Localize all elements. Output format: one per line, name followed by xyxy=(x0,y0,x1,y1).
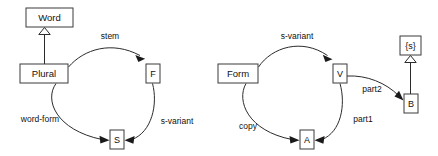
arrowhead-icon xyxy=(395,91,404,101)
arrowhead-icon xyxy=(315,136,325,144)
node-f-label: F xyxy=(150,69,156,79)
arrowhead-icon xyxy=(290,136,300,144)
generalization-plural-to-word[interactable] xyxy=(39,28,50,65)
hollow-triangle-icon xyxy=(39,28,50,35)
node-s[interactable]: S xyxy=(110,130,124,149)
node-form[interactable]: Form xyxy=(218,64,258,83)
node-word-label: Word xyxy=(38,12,61,23)
generalization-b-to-sset[interactable] xyxy=(405,56,416,95)
edge-word-form[interactable]: word-form xyxy=(20,84,110,144)
edge-s-variant-right-label: s-variant xyxy=(281,31,314,41)
node-s-set-label: {s} xyxy=(405,41,416,51)
edge-word-form-label: word-form xyxy=(20,114,59,124)
hollow-triangle-icon xyxy=(405,56,416,63)
edge-part1-label: part1 xyxy=(353,114,373,124)
left-panel-group: stem word-form s-variant Word xyxy=(20,8,194,149)
node-form-label: Form xyxy=(227,68,249,79)
right-panel-group: s-variant copy part1 part2 xyxy=(218,31,421,149)
edge-stem-path xyxy=(69,48,141,67)
node-v[interactable]: V xyxy=(333,64,347,83)
node-b[interactable]: B xyxy=(404,94,418,113)
edge-stem[interactable]: stem xyxy=(69,31,146,67)
edge-stem-label: stem xyxy=(101,31,119,41)
arrowhead-icon xyxy=(323,55,333,62)
node-b-label: B xyxy=(408,99,414,109)
edge-part1-path xyxy=(322,84,342,140)
arrowhead-icon xyxy=(135,55,145,62)
edge-word-form-path xyxy=(52,84,102,140)
node-plural[interactable]: Plural xyxy=(20,64,68,83)
uml-diagram: stem word-form s-variant Word xyxy=(0,0,438,156)
edge-copy-label: copy xyxy=(239,121,258,131)
arrowhead-icon xyxy=(100,136,110,144)
edge-copy[interactable]: copy xyxy=(239,84,299,144)
edge-s-variant-left-path xyxy=(132,84,154,140)
node-f[interactable]: F xyxy=(146,64,160,83)
edge-s-variant-left-label: s-variant xyxy=(161,116,194,126)
edge-part2-label: part2 xyxy=(362,84,382,94)
node-a-label: A xyxy=(304,135,310,145)
edge-s-variant-right[interactable]: s-variant xyxy=(259,31,333,67)
edge-part2[interactable]: part2 xyxy=(347,76,404,101)
node-s-set[interactable]: {s} xyxy=(400,36,421,55)
node-plural-label: Plural xyxy=(32,68,56,79)
node-v-label: V xyxy=(337,69,343,79)
arrowhead-icon xyxy=(125,136,135,144)
node-s-label: S xyxy=(114,135,120,145)
diagram-canvas-root: stem word-form s-variant Word xyxy=(0,0,438,156)
node-word[interactable]: Word xyxy=(26,8,73,27)
edge-s-variant-left[interactable]: s-variant xyxy=(125,84,194,144)
node-a[interactable]: A xyxy=(300,130,314,149)
edge-s-variant-right-path xyxy=(259,46,328,67)
